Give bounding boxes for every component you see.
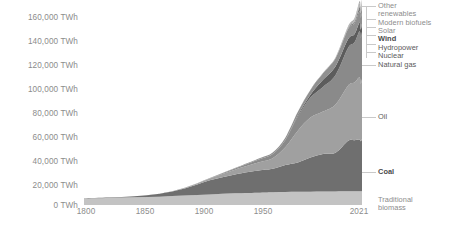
y-axis-tick-60000: 60,000 TWh [33,133,78,142]
legend-leader-spine [366,6,367,58]
plot-area [84,5,362,205]
x-axis-tick-1950: 1950 [254,207,273,217]
legend-leader-solar [366,27,376,28]
y-axis-tick-100000: 100,000 TWh [28,85,78,94]
y-axis-tick-120000: 120,000 TWh [28,61,78,70]
legend-leader-nuclear [366,52,376,53]
y-axis: 160,000 TWh 140,000 TWh 120,000 TWh 100,… [0,0,84,233]
y-axis-tick-140000: 140,000 TWh [28,37,78,46]
energy-consumption-area-chart: 160,000 TWh 140,000 TWh 120,000 TWh 100,… [0,0,450,233]
legend-label-oil[interactable]: Oil [378,113,387,121]
stacked-area-svg [84,5,362,205]
legend-label-traditional-biomass-line2[interactable]: biomass [378,204,406,212]
legend-label-natural-gas[interactable]: Natural gas [378,61,416,69]
legend-leader-modern-biofuels [366,19,376,20]
y-axis-tick-40000: 40,000 TWh [33,157,78,166]
y-axis-tick-160000: 160,000 TWh [28,13,78,22]
legend-leader-other-renewables [366,6,376,7]
legend-label-coal[interactable]: Coal [378,168,394,176]
y-axis-tick-80000: 80,000 TWh [33,109,78,118]
legend-leader-natural-gas [362,65,376,66]
legend-leader-hydropower [366,44,376,45]
x-axis-tick-1900: 1900 [195,207,214,217]
legend-leader-oil [362,117,376,118]
legend-leader-coal [362,172,376,173]
x-axis-tick-1850: 1850 [136,207,155,217]
x-axis-tick-1800: 1800 [77,207,96,217]
y-axis-tick-20000: 20,000 TWh [33,181,78,190]
legend-leader-wind [366,35,376,36]
legend: Other renewables Modern biofuels Solar W… [362,0,450,233]
